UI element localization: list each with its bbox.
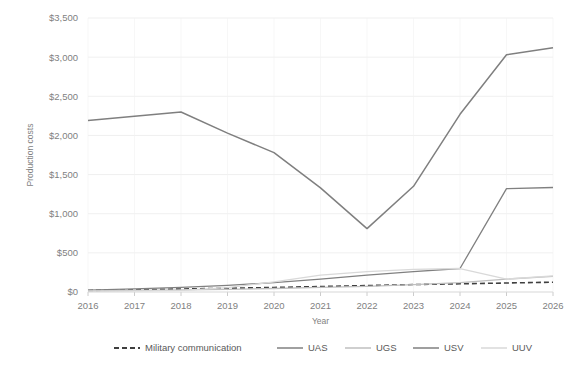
y-tick-label: $2,500 [49,91,78,102]
x-tick-label: 2023 [403,300,424,311]
legend-label-uuv[interactable]: UUV [512,342,533,353]
y-tick-label: $1,000 [49,208,78,219]
x-tick-label: 2017 [124,300,145,311]
legend-label-military-communication[interactable]: Military communication [145,342,242,353]
y-tick-label: $0 [67,286,78,297]
y-tick-label: $3,000 [49,52,78,63]
x-tick-label: 2026 [542,300,563,311]
y-tick-label: $1,500 [49,169,78,180]
x-tick-label: 2018 [170,300,191,311]
legend-label-usv[interactable]: USV [444,342,464,353]
plot-background [0,0,569,371]
y-tick-label: $500 [57,247,78,258]
chart-container: $0$500$1,000$1,500$2,000$2,500$3,000$3,5… [0,0,569,371]
y-tick-label: $3,500 [49,12,78,23]
y-tick-label: $2,000 [49,130,78,141]
x-tick-label: 2020 [263,300,284,311]
x-tick-label: 2024 [449,300,470,311]
legend-label-uas[interactable]: UAS [308,342,328,353]
x-tick-label: 2025 [496,300,517,311]
x-tick-label: 2022 [356,300,377,311]
x-tick-label: 2021 [310,300,331,311]
x-axis-title: Year [312,316,329,326]
x-tick-label: 2016 [77,300,98,311]
y-axis-title: Production costs [25,124,35,187]
x-tick-label: 2019 [217,300,238,311]
legend-label-ugs[interactable]: UGS [376,342,397,353]
line-chart: $0$500$1,000$1,500$2,000$2,500$3,000$3,5… [0,0,569,371]
